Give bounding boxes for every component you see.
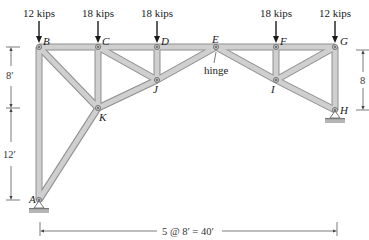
- dim-right: 8: [360, 75, 365, 86]
- joint-pin-D: [156, 46, 158, 48]
- node-label-E: E: [211, 33, 219, 45]
- node-label-A: A: [28, 193, 36, 205]
- member-AK-fill: [39, 108, 98, 200]
- hinge-label: hinge: [204, 64, 229, 76]
- node-label-C: C: [102, 35, 110, 47]
- node-label-J: J: [153, 83, 159, 95]
- joint-pin-K: [97, 107, 99, 109]
- member-BK-fill: [39, 47, 98, 108]
- load-label: 18 kips: [260, 7, 292, 19]
- truss-members: [39, 47, 335, 200]
- joint-pin-E: [215, 46, 217, 48]
- node-label-K: K: [98, 111, 107, 123]
- member-CJ-fill: [98, 47, 157, 80]
- load-label: 12 kips: [23, 7, 55, 19]
- load-B: 12 kips: [23, 7, 55, 43]
- arrowhead-icon: [332, 36, 338, 43]
- left-dimension: 8′ 12′: [3, 47, 20, 200]
- node-label-D: D: [160, 35, 169, 47]
- dim-bottom: 5 @ 8′ = 40′: [162, 226, 214, 237]
- member-IG-fill: [276, 47, 335, 80]
- load-arrows: 12 kips18 kips18 kips18 kips12 kips: [23, 7, 351, 43]
- member-IH-fill: [276, 80, 335, 110]
- load-F: 18 kips: [260, 7, 292, 43]
- joint-pin-F: [275, 46, 277, 48]
- joint-pin-I: [275, 79, 277, 81]
- node-label-H: H: [339, 104, 349, 116]
- node-label-I: I: [270, 83, 276, 95]
- bottom-dimension: 5 @ 8′ = 40′: [40, 222, 337, 237]
- dim-left-upper: 8′: [6, 70, 14, 81]
- arrowhead-icon: [36, 36, 42, 43]
- load-label: 18 kips: [82, 7, 114, 19]
- joint-pin-B: [38, 46, 40, 48]
- joint-pin-J: [156, 79, 158, 81]
- joint-pin-G: [334, 46, 336, 48]
- truss-diagram: 12 kips18 kips18 kips18 kips12 kips ABCD…: [0, 0, 369, 240]
- arrowhead-icon: [95, 36, 101, 43]
- arrowhead-icon: [273, 36, 279, 43]
- right-dimension: 8: [356, 50, 369, 110]
- load-label: 12 kips: [319, 7, 351, 19]
- joint-pin-C: [97, 46, 99, 48]
- node-label-G: G: [340, 35, 348, 47]
- node-label-F: F: [279, 35, 287, 47]
- node-label-B: B: [43, 35, 50, 47]
- load-label: 18 kips: [141, 7, 173, 19]
- member-KJ-fill: [98, 80, 157, 108]
- dim-left-lower: 12′: [3, 149, 16, 160]
- arrowhead-icon: [154, 36, 160, 43]
